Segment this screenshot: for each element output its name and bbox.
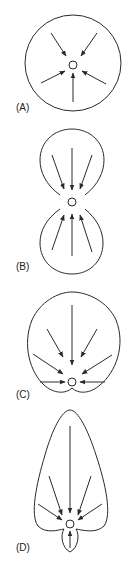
panel-c-outline [28, 292, 120, 392]
arrow-icon [81, 329, 97, 357]
arrow-icon [80, 155, 92, 189]
diagram-svg [0, 0, 139, 568]
panel-d-center-node [66, 520, 74, 528]
panel-b-center-node [68, 198, 76, 206]
arrow-icon [47, 329, 63, 357]
arrow-icon [51, 33, 66, 56]
arrow-icon [33, 354, 63, 374]
arrow-icon [52, 155, 64, 189]
panel-d-label: (D) [16, 543, 30, 553]
arrow-icon [78, 476, 91, 515]
arrow-icon [49, 476, 62, 515]
arrow-icon [52, 215, 64, 250]
arrow-icon [78, 504, 102, 520]
panel-a-label: (A) [16, 103, 29, 113]
panel-d [34, 410, 107, 552]
arrow-icon [81, 33, 97, 56]
arrow-icon [80, 215, 92, 252]
arrow-icon [41, 71, 65, 83]
panel-d-outline [34, 410, 107, 552]
panel-b [40, 129, 104, 274]
arrow-icon [82, 71, 106, 84]
panel-c-center-node [68, 378, 76, 386]
diagram-canvas: (A) (B) (C) (D) [0, 0, 139, 568]
arrow-icon [38, 504, 62, 520]
panel-a-center-node [69, 61, 77, 69]
arrow-icon [82, 355, 112, 374]
panel-b-label: (B) [16, 262, 29, 272]
panel-c [28, 292, 120, 392]
panel-a [25, 15, 121, 111]
panel-c-label: (C) [16, 390, 30, 400]
